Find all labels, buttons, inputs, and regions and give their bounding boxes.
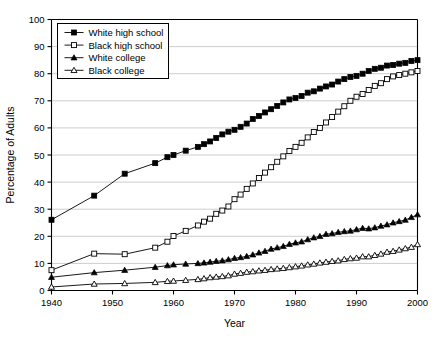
marker-open-square	[232, 197, 237, 202]
y-tick-label-10: 10	[34, 258, 45, 269]
marker-filled-square	[293, 96, 298, 101]
education-attainment-line-chart: 0102030405060708090100194019501960197019…	[0, 0, 441, 341]
series-line-3	[52, 244, 418, 287]
marker-open-square	[415, 68, 420, 73]
x-axis: 1940195019601970198019902000	[41, 291, 428, 308]
x-tick-label-1960: 1960	[163, 297, 184, 308]
marker-filled-square	[366, 68, 371, 73]
marker-filled-square	[275, 103, 280, 108]
marker-filled-square	[372, 66, 377, 71]
marker-filled-square	[256, 113, 261, 118]
y-tick-label-40: 40	[34, 177, 45, 188]
marker-filled-square	[403, 60, 408, 65]
marker-open-square	[214, 211, 219, 216]
marker-filled-square	[263, 110, 268, 115]
marker-filled-square	[220, 132, 225, 137]
series-line-0	[52, 60, 418, 220]
marker-open-square	[299, 140, 304, 145]
legend: White high schoolBlack high schoolWhite …	[58, 24, 169, 79]
marker-filled-square	[391, 63, 396, 68]
series-line-2	[52, 215, 418, 278]
y-tick-label-50: 50	[34, 150, 45, 161]
marker-open-square	[293, 144, 298, 149]
marker-filled-square	[385, 63, 390, 68]
series-black-college	[49, 241, 421, 289]
marker-filled-square	[269, 107, 274, 112]
x-tick-label-1950: 1950	[102, 297, 123, 308]
marker-open-square	[311, 129, 316, 134]
marker-filled-square	[299, 93, 304, 98]
marker-open-square	[153, 245, 158, 250]
marker-filled-square	[305, 90, 310, 95]
marker-open-square	[378, 81, 383, 86]
marker-filled-square	[336, 79, 341, 84]
x-tick-label-1940: 1940	[41, 297, 62, 308]
marker-filled-square	[250, 116, 255, 121]
marker-filled-square	[208, 139, 213, 144]
marker-filled-triangle	[402, 217, 408, 222]
marker-open-square	[256, 176, 261, 181]
legend-label-2: White college	[89, 52, 146, 63]
marker-filled-square	[287, 97, 292, 102]
marker-open-square	[409, 70, 414, 75]
marker-open-square	[330, 115, 335, 120]
marker-open-square	[72, 43, 77, 48]
marker-filled-square	[324, 84, 329, 89]
marker-filled-square	[354, 73, 359, 78]
marker-filled-square	[342, 77, 347, 82]
marker-filled-triangle	[415, 212, 421, 217]
marker-filled-square	[330, 82, 335, 87]
marker-filled-square	[226, 129, 231, 134]
marker-open-square	[391, 74, 396, 79]
marker-filled-square	[232, 127, 237, 132]
marker-filled-square	[183, 148, 188, 153]
marker-open-square	[202, 219, 207, 224]
chart-container: 0102030405060708090100194019501960197019…	[0, 0, 441, 341]
x-tick-label-1970: 1970	[224, 297, 245, 308]
y-axis-title: Percentage of Adults	[4, 107, 16, 204]
x-tick-label-1990: 1990	[346, 297, 367, 308]
marker-filled-square	[244, 121, 249, 126]
marker-filled-square	[415, 58, 420, 63]
marker-open-square	[360, 92, 365, 97]
marker-filled-square	[92, 193, 97, 198]
marker-open-square	[122, 252, 127, 257]
marker-open-square	[403, 71, 408, 76]
series-white-college	[49, 212, 421, 280]
marker-open-square	[165, 239, 170, 244]
legend-label-1: Black high school	[89, 40, 163, 51]
y-tick-label-30: 30	[34, 204, 45, 215]
marker-open-square	[281, 154, 286, 159]
series-black-high-school	[49, 68, 420, 272]
y-tick-label-90: 90	[34, 41, 45, 52]
marker-open-square	[244, 186, 249, 191]
marker-filled-square	[165, 155, 170, 160]
marker-open-square	[238, 192, 243, 197]
y-tick-label-70: 70	[34, 95, 45, 106]
y-tick-label-20: 20	[34, 231, 45, 242]
marker-filled-square	[72, 30, 77, 35]
marker-open-square	[342, 104, 347, 109]
marker-open-square	[250, 181, 255, 186]
marker-open-square	[336, 109, 341, 114]
marker-open-square	[348, 98, 353, 103]
marker-filled-square	[317, 86, 322, 91]
marker-open-triangle	[408, 244, 414, 249]
marker-filled-triangle	[408, 214, 414, 219]
legend-label-3: Black college	[89, 65, 145, 76]
y-tick-label-60: 60	[34, 122, 45, 133]
marker-open-square	[269, 165, 274, 170]
marker-open-triangle	[415, 241, 421, 246]
marker-filled-square	[281, 100, 286, 105]
marker-open-square	[324, 120, 329, 125]
marker-open-square	[317, 125, 322, 130]
y-tick-label-0: 0	[39, 285, 44, 296]
marker-filled-square	[409, 58, 414, 63]
marker-open-square	[92, 251, 97, 256]
y-tick-label-100: 100	[29, 14, 45, 25]
marker-filled-square	[311, 89, 316, 94]
x-tick-label-1980: 1980	[285, 297, 306, 308]
marker-open-square	[49, 268, 54, 273]
marker-filled-square	[49, 217, 54, 222]
marker-open-square	[354, 94, 359, 99]
